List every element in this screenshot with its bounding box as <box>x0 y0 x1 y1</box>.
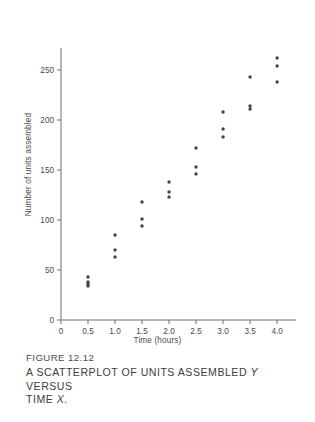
data-point <box>194 165 197 168</box>
data-point <box>140 200 143 203</box>
y-tick-label: 50 <box>45 266 55 275</box>
data-point <box>194 146 197 149</box>
data-point <box>140 224 143 227</box>
scatterplot: 05010015020025000.51.01.52.02.53.03.54.0… <box>0 0 315 352</box>
data-point <box>140 217 143 220</box>
data-point <box>194 172 197 175</box>
y-tick-label: 150 <box>40 166 54 175</box>
data-point <box>86 284 89 287</box>
y-tick-label: 200 <box>40 116 54 125</box>
data-point <box>221 127 224 130</box>
y-tick-label: 0 <box>49 316 54 325</box>
data-point <box>248 107 251 110</box>
x-tick-label: 3.0 <box>217 327 229 336</box>
x-tick-label: 3.5 <box>244 327 256 336</box>
data-point <box>86 275 89 278</box>
data-point <box>167 180 170 183</box>
y-tick-label: 250 <box>40 66 54 75</box>
data-point <box>113 255 116 258</box>
figure-title: A SCATTERPLOT OF UNITS ASSEMBLED Y VERSU… <box>26 366 304 407</box>
x-tick-label: 2.5 <box>190 327 202 336</box>
figure-caption: FIGURE 12.12 A SCATTERPLOT OF UNITS ASSE… <box>26 352 304 407</box>
data-point <box>167 190 170 193</box>
data-point <box>275 64 278 67</box>
caption-line1-pre: A SCATTERPLOT OF UNITS ASSEMBLED <box>26 366 251 378</box>
x-tick-label: 1.0 <box>109 327 121 336</box>
data-point <box>248 104 251 107</box>
caption-variable-y: Y <box>251 366 259 378</box>
data-point <box>113 248 116 251</box>
figure-container: 05010015020025000.51.01.52.02.53.03.54.0… <box>0 0 315 422</box>
y-tick-label: 100 <box>40 216 54 225</box>
caption-line2-post: . <box>64 393 67 405</box>
x-axis-title: Time (hours) <box>0 336 315 345</box>
x-tick-label: 4.0 <box>271 327 283 336</box>
x-tick-label: 0 <box>59 327 64 336</box>
data-point <box>275 80 278 83</box>
data-point <box>275 56 278 59</box>
y-axis-title: Number of units assembled <box>24 65 33 265</box>
x-tick-label: 1.5 <box>136 327 148 336</box>
data-point <box>113 233 116 236</box>
figure-number: FIGURE 12.12 <box>26 352 304 363</box>
caption-line2-pre: TIME <box>26 393 57 405</box>
x-tick-label: 2.0 <box>163 327 175 336</box>
caption-line1-post: VERSUS <box>26 380 73 392</box>
data-point <box>221 110 224 113</box>
x-tick-label: 0.5 <box>82 327 94 336</box>
data-point <box>221 135 224 138</box>
data-point <box>167 195 170 198</box>
data-point <box>248 75 251 78</box>
plot-canvas: 05010015020025000.51.01.52.02.53.03.54.0 <box>0 0 315 352</box>
